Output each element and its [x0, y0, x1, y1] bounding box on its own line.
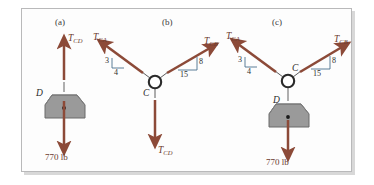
panel-b-slope-run-4: 4: [114, 68, 118, 77]
panel-b-slope-rise-3: 3: [105, 56, 109, 65]
panel-c-node-label-d: D: [273, 95, 280, 105]
panel-c-slope-rise-3: 3: [238, 55, 242, 64]
panel-c-label-tcb: TCB: [334, 34, 348, 44]
panel-a-load-label: 770 lb: [45, 152, 68, 162]
panel-b-node-label-c: C: [143, 88, 149, 98]
panel-b-hairline-left: [142, 72, 150, 78]
panel-b-label-tca: TCA: [93, 32, 107, 42]
panel-c-ring-c: [282, 75, 294, 87]
panel-b-ring-c: [149, 76, 161, 88]
panel-b-hairline-right: [160, 72, 168, 78]
panel-c-pin-dot: [286, 115, 290, 119]
panel-c-load-label: 770 lb: [266, 157, 289, 167]
panel-c-slope-run-4: 4: [247, 67, 251, 76]
panel-b-vector-tca: [105, 45, 143, 73]
panel-c-hairline-left: [275, 71, 283, 77]
panel-a-label-tcd: TCD: [68, 33, 82, 43]
panel-b-slope-rise-8: 8: [199, 57, 203, 66]
panel-label-b: (b): [162, 17, 173, 27]
panel-b-label-tcd: TCD: [158, 145, 172, 155]
panel-label-c: (c): [272, 17, 282, 27]
figure-container: (a) (b) (c): [0, 0, 374, 185]
panel-b-slope-run-15: 15: [180, 70, 188, 79]
panel-label-a: (a): [55, 17, 65, 27]
panel-c-label-tca: TCA: [226, 31, 240, 41]
panel-c-slope-rise-8: 8: [332, 56, 336, 65]
panel-c-slope-run-15: 15: [313, 69, 321, 78]
panel-a-node-label-d: D: [36, 88, 43, 98]
panel-c-node-label-c: C: [292, 63, 298, 73]
panel-b-vector-tcb: [167, 48, 210, 73]
panel-b-label-tcb: TCB: [204, 36, 218, 46]
panel-c-vector-tca: [238, 44, 276, 72]
